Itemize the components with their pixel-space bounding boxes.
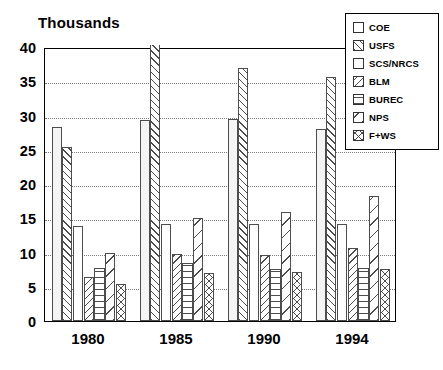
bar <box>260 255 270 321</box>
x-tick-label: 1990 <box>247 330 280 347</box>
forward-diagonal-swatch <box>353 40 364 51</box>
bar <box>249 224 259 321</box>
back-diagonal-swatch <box>353 76 364 87</box>
bar <box>348 248 358 321</box>
y-tick-label: 20 <box>20 178 36 193</box>
legend-item-label: USFS <box>369 41 395 51</box>
bar <box>292 272 302 321</box>
legend-item-label: NPS <box>369 113 389 123</box>
legend-item: BUREC <box>353 91 433 108</box>
bar <box>150 45 160 321</box>
bar <box>369 196 379 321</box>
bars-layer <box>45 49 395 321</box>
bar <box>337 224 347 321</box>
legend-item: BLM <box>353 73 433 90</box>
bar <box>204 273 214 321</box>
y-tick-label: 0 <box>28 315 36 330</box>
bar <box>270 269 280 321</box>
cross-hatch-swatch <box>353 130 364 141</box>
bar <box>140 120 150 321</box>
legend-item: USFS <box>353 37 433 54</box>
bar <box>238 68 248 321</box>
legend-item-label: SCS/NRCS <box>369 59 419 69</box>
bar <box>116 284 126 321</box>
bar <box>94 268 104 321</box>
legend-item: COE <box>353 19 433 36</box>
wide-back-diagonal-swatch <box>353 112 364 123</box>
y-tick-label: 5 <box>28 281 36 296</box>
bar <box>358 268 368 321</box>
y-tick-label: 40 <box>20 41 36 56</box>
plot-area <box>44 48 396 322</box>
dots-swatch <box>353 22 364 33</box>
bar <box>380 269 390 321</box>
y-tick-label: 25 <box>20 144 36 159</box>
y-tick-label: 30 <box>20 109 36 124</box>
bar <box>326 77 336 321</box>
x-tick-label: 1994 <box>335 330 368 347</box>
bar <box>52 127 62 321</box>
legend-item-label: COE <box>369 23 390 33</box>
legend-item-label: BLM <box>369 77 390 87</box>
bar <box>161 224 171 321</box>
bar <box>84 277 94 321</box>
bar <box>193 218 203 321</box>
bar <box>105 253 115 321</box>
blank-swatch <box>353 58 364 69</box>
horizontal-lines-swatch <box>353 94 364 105</box>
legend-item-label: F+WS <box>369 131 396 141</box>
legend: COEUSFSSCS/NRCSBLMBURECNPSF+WS <box>345 13 439 150</box>
bar <box>172 254 182 321</box>
x-tick-label: 1980 <box>71 330 104 347</box>
bar <box>182 263 192 321</box>
x-tick-label: 1985 <box>159 330 192 347</box>
y-axis: 0510152025303540 <box>0 48 40 322</box>
legend-item-label: BUREC <box>369 95 403 105</box>
chart-title: Thousands <box>38 14 120 31</box>
bar <box>228 119 238 321</box>
bar <box>281 212 291 321</box>
legend-item: F+WS <box>353 127 433 144</box>
legend-item: SCS/NRCS <box>353 55 433 72</box>
bar <box>73 226 83 321</box>
x-axis: 1980198519901994 <box>44 330 396 354</box>
y-tick-label: 10 <box>20 246 36 261</box>
y-tick-label: 35 <box>20 75 36 90</box>
y-tick-label: 15 <box>20 212 36 227</box>
bar <box>62 147 72 321</box>
bar <box>316 129 326 321</box>
bar-chart: Thousands 0510152025303540 1980198519901… <box>0 0 443 370</box>
legend-item: NPS <box>353 109 433 126</box>
